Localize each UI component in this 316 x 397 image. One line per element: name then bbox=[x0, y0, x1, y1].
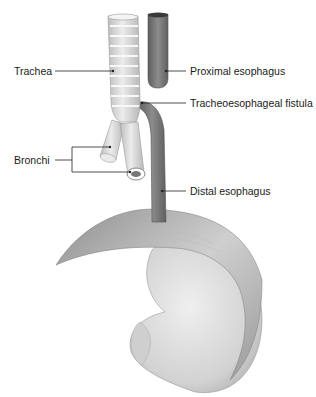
label-trachea: Trachea bbox=[14, 65, 52, 77]
proximal-esophagus bbox=[148, 13, 168, 89]
label-tracheoesophageal-fistula: Tracheoesophageal fistula bbox=[190, 97, 313, 109]
trachea bbox=[108, 14, 140, 122]
label-proximal-esophagus: Proximal esophagus bbox=[190, 65, 285, 77]
anatomy-illustration bbox=[0, 0, 316, 397]
bronchi bbox=[99, 120, 145, 180]
label-distal-esophagus: Distal esophagus bbox=[190, 185, 271, 197]
label-bronchi: Bronchi bbox=[14, 154, 50, 166]
